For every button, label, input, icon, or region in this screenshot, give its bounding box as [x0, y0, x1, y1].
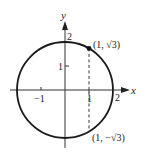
point-label-upper: (1, √3) — [93, 39, 120, 51]
point-label-lower: (1, −√3) — [92, 132, 125, 144]
y-tick-label-2: 2 — [67, 31, 72, 42]
x-axis-label: x — [130, 84, 136, 96]
y-axis-arrow-icon — [62, 21, 68, 30]
y-tick-label-1: 1 — [58, 61, 63, 72]
point-marker — [87, 46, 92, 51]
circle-diagram: y x −1 1 2 1 2 (1, √3) (1, −√3) — [0, 0, 143, 152]
x-tick-label-1: 1 — [87, 93, 92, 104]
y-axis-label: y — [60, 9, 66, 21]
x-tick-label-2: 2 — [115, 92, 120, 103]
x-axis-arrow-icon — [121, 87, 130, 93]
x-tick-label-neg1: −1 — [34, 93, 45, 104]
